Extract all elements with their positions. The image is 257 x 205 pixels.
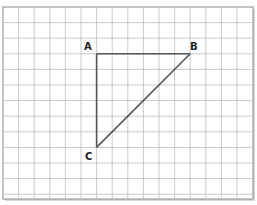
point-label-c: C [85, 152, 92, 162]
point-label-a: A [84, 42, 92, 52]
point-label-b: B [190, 42, 198, 52]
grid-diagram [0, 0, 257, 205]
